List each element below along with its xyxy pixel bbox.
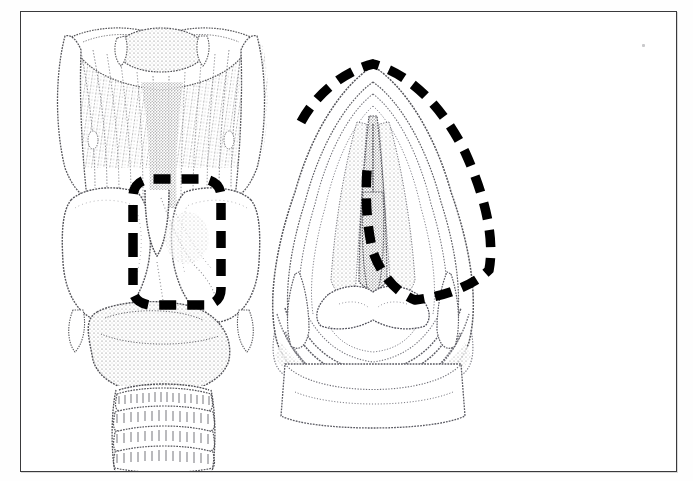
inferior-cornu-right [237,310,253,352]
inferior-cornu-left [69,310,85,352]
figure-right-laryngeal-inlet [273,64,491,428]
plate-title: Larynx anatomical plate [0,0,1,1]
tracheal-rings [112,384,215,471]
cricoid-cartilage [88,302,230,394]
figure-page: Larynx anatomical plate [0,0,693,493]
figure-left-larynx-posterior [58,26,268,471]
scan-speck [642,44,645,47]
median-upper-body [117,28,205,72]
plate-frame [20,11,677,472]
figure-caption-strip [0,481,693,493]
plate-illustration [21,12,676,471]
plate-canvas [21,12,676,471]
tracheal-stump [281,364,465,428]
